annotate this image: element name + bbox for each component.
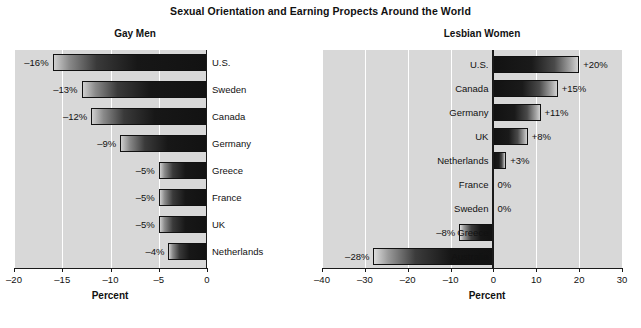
category-label: Germany: [212, 135, 302, 152]
category-label: Netherlands: [398, 152, 488, 169]
x-axis-title-gay-men: Percent: [55, 290, 165, 301]
axis-tick-label: –30: [345, 274, 385, 285]
bar-value-label: 0%: [497, 200, 545, 217]
category-label: France: [212, 189, 302, 206]
bar: [120, 135, 207, 152]
category-label: Australia: [398, 248, 488, 265]
axis-tick: [62, 268, 63, 272]
axis-tick-label: –20: [388, 274, 428, 285]
bar: [493, 128, 527, 145]
category-label: Sweden: [212, 81, 302, 98]
axis-tick-label: –15: [42, 274, 82, 285]
category-label: Canada: [398, 80, 488, 97]
axis-tick-label: –40: [302, 274, 342, 285]
axis-tick: [159, 268, 160, 272]
gridline: [365, 50, 366, 268]
panel-gay-men: Gay Men –16%U.S.–13%Sweden–12%Canada–9%G…: [0, 0, 322, 328]
axis-tick-label: 0: [473, 274, 513, 285]
bar-value-label: –12%: [39, 108, 87, 125]
axis-tick: [207, 268, 208, 272]
axis-tick: [14, 268, 15, 272]
axis-tick-label: –20: [0, 274, 34, 285]
axis-tick: [536, 268, 537, 272]
axis-tick: [408, 268, 409, 272]
bar-value-label: +20%: [583, 56, 631, 73]
zero-axis-line: [206, 50, 207, 268]
bar-value-label: –5%: [107, 162, 155, 179]
axis-tick-label: –5: [139, 274, 179, 285]
bar: [168, 243, 207, 260]
axis-tick: [111, 268, 112, 272]
category-label: Canada: [212, 108, 302, 125]
category-label: Greece: [398, 224, 488, 241]
x-axis-title-lesbian-women: Percent: [432, 290, 542, 301]
figure-root: Sexual Orientation and Earning Propects …: [0, 0, 641, 328]
bar: [493, 80, 557, 97]
bar: [493, 104, 540, 121]
axis-tick: [322, 268, 323, 272]
category-label: France: [398, 176, 488, 193]
axis-tick-label: –10: [431, 274, 471, 285]
axis-tick-label: –10: [91, 274, 131, 285]
axis-tick: [365, 268, 366, 272]
panel-title-lesbian-women: Lesbian Women: [382, 28, 582, 39]
axis-tick-label: 30: [602, 274, 641, 285]
bar-value-label: –4%: [116, 243, 164, 260]
category-label: Greece: [212, 162, 302, 179]
bar-value-label: –13%: [30, 81, 78, 98]
bar-value-label: +11%: [545, 104, 593, 121]
x-axis-line-lesbian-women: [322, 268, 622, 269]
bar: [91, 108, 207, 125]
axis-tick: [493, 268, 494, 272]
bar-value-label: –16%: [1, 54, 49, 71]
axis-tick-label: 0: [187, 274, 227, 285]
bar-value-label: –28%: [321, 248, 369, 265]
bar-value-label: 0%: [497, 176, 545, 193]
bar: [493, 152, 506, 169]
bar: [53, 54, 207, 71]
axis-tick: [579, 268, 580, 272]
axis-tick-label: 10: [516, 274, 556, 285]
bar-value-label: –5%: [107, 189, 155, 206]
axis-tick: [622, 268, 623, 272]
category-label: Netherlands: [212, 243, 302, 260]
axis-tick: [451, 268, 452, 272]
bar-value-label: +15%: [562, 80, 610, 97]
bar-value-label: –5%: [107, 216, 155, 233]
bar: [159, 216, 207, 233]
bar-value-label: +3%: [510, 152, 558, 169]
axis-tick-label: 20: [559, 274, 599, 285]
category-label: U.S.: [398, 56, 488, 73]
panel-title-gay-men: Gay Men: [50, 28, 220, 39]
category-label: Germany: [398, 104, 488, 121]
bar: [159, 162, 207, 179]
bar-value-label: –9%: [68, 135, 116, 152]
bar-value-label: +8%: [532, 128, 580, 145]
category-label: U.S.: [212, 54, 302, 71]
bar: [82, 81, 207, 98]
bar: [493, 56, 579, 73]
zero-axis-line: [492, 50, 494, 268]
gridline: [322, 50, 323, 268]
bar: [159, 189, 207, 206]
category-label: UK: [398, 128, 488, 145]
category-label: Sweden: [398, 200, 488, 217]
category-label: UK: [212, 216, 302, 233]
gridline: [14, 50, 15, 268]
